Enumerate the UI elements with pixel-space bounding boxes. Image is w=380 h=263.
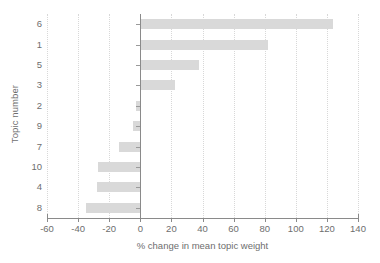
x-axis-tick bbox=[140, 218, 141, 222]
y-axis-tick-label: 4 bbox=[20, 182, 42, 192]
bar-row[interactable] bbox=[47, 75, 358, 95]
x-axis-tick bbox=[78, 218, 79, 222]
x-axis-tick bbox=[171, 218, 172, 222]
plot-area bbox=[47, 14, 358, 218]
x-axis-tick bbox=[109, 218, 110, 222]
y-axis-tick-labels: 61532971048 bbox=[16, 14, 42, 218]
y-axis-tick-label: 10 bbox=[20, 162, 42, 172]
bar-row[interactable] bbox=[47, 14, 358, 34]
y-axis-tick-label: 1 bbox=[20, 40, 42, 50]
bar[interactable] bbox=[140, 19, 333, 29]
bar[interactable] bbox=[86, 203, 140, 213]
bar-row[interactable] bbox=[47, 34, 358, 54]
x-axis-tick bbox=[265, 218, 266, 222]
bar[interactable] bbox=[97, 182, 141, 192]
bar[interactable] bbox=[140, 40, 268, 50]
x-axis-tick bbox=[203, 218, 204, 222]
x-axis-tick-label: 140 bbox=[338, 223, 378, 235]
y-axis-tick-label: 3 bbox=[20, 80, 42, 90]
bar-row[interactable] bbox=[47, 136, 358, 156]
y-axis-tick-label: 7 bbox=[20, 142, 42, 152]
bar-row[interactable] bbox=[47, 157, 358, 177]
x-axis-tick bbox=[296, 218, 297, 222]
x-axis-end-cap bbox=[358, 214, 359, 219]
bar-row[interactable] bbox=[47, 198, 358, 218]
zero-axis bbox=[140, 14, 141, 218]
x-axis-tick bbox=[234, 218, 235, 222]
x-axis-title: % change in mean topic weight bbox=[47, 240, 358, 252]
bar-row[interactable] bbox=[47, 96, 358, 116]
bar[interactable] bbox=[98, 162, 140, 172]
gridline bbox=[358, 14, 360, 218]
bar-chart: Topic number 61532971048 -60-40-20020406… bbox=[0, 0, 380, 263]
y-axis-tick-label: 9 bbox=[20, 121, 42, 131]
y-axis-tick-label: 5 bbox=[20, 60, 42, 70]
bar[interactable] bbox=[140, 60, 199, 70]
bar[interactable] bbox=[140, 80, 174, 90]
bar-row[interactable] bbox=[47, 55, 358, 75]
x-axis-end-cap bbox=[47, 214, 48, 219]
bar-row[interactable] bbox=[47, 177, 358, 197]
y-axis-tick-label: 6 bbox=[20, 19, 42, 29]
x-axis-tick bbox=[327, 218, 328, 222]
y-axis-tick-label: 8 bbox=[20, 203, 42, 213]
y-axis-tick-label: 2 bbox=[20, 101, 42, 111]
bar-row[interactable] bbox=[47, 116, 358, 136]
